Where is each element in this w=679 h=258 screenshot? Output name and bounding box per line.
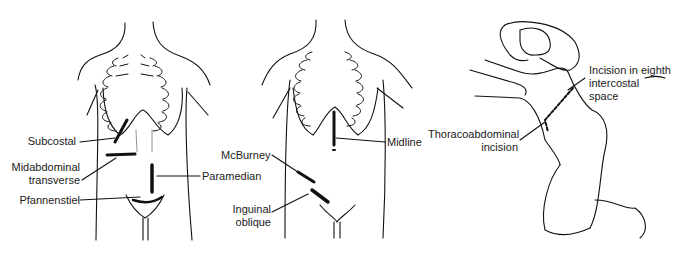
label-paramedian: Paramedian — [202, 170, 261, 182]
label-eighth-line2: intercostal — [589, 77, 639, 89]
label-subcostal: Subcostal — [20, 135, 76, 147]
left-torso-figure — [78, 22, 210, 240]
label-thoracoabdominal-line1: Thoracoabdominal — [428, 128, 519, 140]
label-mcburney: McBurney — [221, 149, 271, 161]
label-eighth-line1: Incision in eighth — [589, 64, 671, 76]
label-eighth-line3: space — [589, 90, 618, 102]
label-midabdominal-line2: transverse — [4, 174, 80, 186]
label-thoracoabdominal-line2: incision — [428, 141, 518, 153]
middle-torso-figure — [262, 20, 412, 238]
incision-diagram — [0, 0, 679, 258]
label-midabdominal-line1: Midabdominal — [4, 161, 80, 173]
label-midline: Midline — [387, 136, 422, 148]
label-inguinal-line1: Inguinal — [220, 203, 271, 215]
label-pfannenstiel: Pfannenstiel — [4, 194, 80, 206]
label-inguinal-line2: oblique — [220, 216, 271, 228]
